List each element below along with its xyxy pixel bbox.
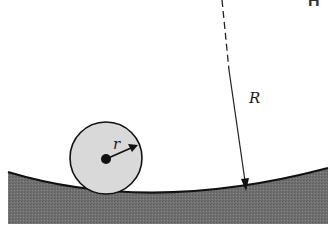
diagram-canvas: H r R <box>0 0 330 227</box>
small-radius-label: r <box>113 135 121 153</box>
concave-surface <box>8 168 328 224</box>
large-radius-indicator <box>222 0 249 191</box>
large-radius-label: R <box>248 89 260 107</box>
partial-top-text: H <box>308 0 320 9</box>
ball <box>70 122 142 194</box>
diagram-svg: H r R <box>0 0 330 227</box>
